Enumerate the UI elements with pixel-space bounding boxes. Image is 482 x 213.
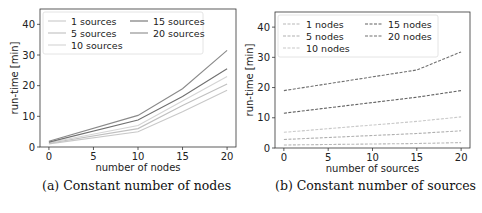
y-tick-label: 10 [257, 112, 270, 123]
caption-a: (a) Constant number of nodes [42, 178, 231, 193]
series-line [284, 52, 461, 91]
y-axis-label: run-time [min] [244, 43, 255, 116]
caption-b: (b) Constant number of sources [275, 178, 476, 193]
legend-label: 10 sources [71, 40, 123, 51]
legend-label: 15 sources [153, 16, 205, 27]
y-tick-label: 0 [264, 143, 270, 154]
y-tick-label: 20 [22, 80, 35, 91]
x-tick-label: 5 [325, 152, 331, 163]
series-line [49, 50, 227, 141]
series-line [284, 131, 461, 140]
y-tick-label: 30 [257, 52, 270, 63]
chart-b: 01020304005101520number of sourcesrun-ti… [244, 12, 470, 174]
series-line [284, 117, 461, 132]
x-axis-label: number of sources [326, 163, 419, 174]
x-tick-label: 20 [221, 151, 234, 162]
x-tick-label: 15 [176, 151, 189, 162]
x-tick-label: 15 [410, 152, 423, 163]
series-line [284, 143, 461, 145]
legend-label: 5 sources [71, 28, 117, 39]
x-axis-label: number of nodes [95, 162, 180, 173]
x-tick-label: 5 [90, 151, 96, 162]
legend-label: 1 nodes [306, 19, 344, 30]
x-tick-label: 0 [281, 152, 287, 163]
y-tick-label: 40 [22, 19, 35, 30]
legend-label: 5 nodes [306, 31, 344, 42]
y-axis-label: run-time [min] [9, 41, 20, 114]
series-line [49, 84, 227, 143]
legend-label: 1 sources [71, 16, 117, 27]
legend-label: 15 nodes [388, 19, 432, 30]
x-tick-label: 10 [132, 151, 145, 162]
x-tick-label: 10 [366, 152, 379, 163]
series-line [49, 77, 227, 143]
x-tick-label: 20 [455, 152, 468, 163]
series-line [284, 91, 461, 114]
x-tick-label: 0 [46, 151, 52, 162]
y-tick-label: 0 [29, 142, 35, 153]
chart-a: 01020304005101520number of nodesrun-time… [9, 9, 236, 173]
legend-label: 20 sources [153, 28, 205, 39]
legend-label: 10 nodes [306, 43, 350, 54]
y-tick-label: 30 [22, 50, 35, 61]
y-tick-label: 10 [22, 111, 35, 122]
y-tick-label: 40 [257, 22, 270, 33]
legend-label: 20 nodes [388, 31, 432, 42]
y-tick-label: 20 [257, 82, 270, 93]
